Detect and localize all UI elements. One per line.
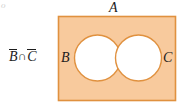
expression-label: B∩C: [9, 50, 37, 64]
universal-set-label: A: [109, 1, 118, 15]
set-b-label: B: [61, 51, 70, 65]
expression-second-complement: C: [27, 50, 36, 64]
set-c-circle: [116, 35, 162, 81]
set-b-circle: [75, 35, 121, 81]
set-c-label: C: [163, 51, 172, 65]
expression-first-complement: B: [9, 50, 18, 64]
intersection-operator: ∩: [18, 49, 28, 63]
